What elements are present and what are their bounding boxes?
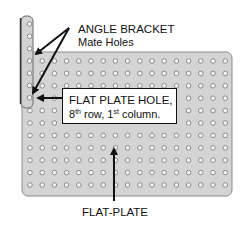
hole (211, 183, 216, 188)
hole (52, 158, 57, 163)
hole (28, 108, 33, 113)
callout-line-1: FLAT PLATE HOLE, (69, 94, 173, 106)
hole (52, 146, 57, 151)
hole (162, 133, 167, 138)
hole (174, 146, 179, 151)
hole (125, 170, 130, 175)
column-text: column. (119, 108, 161, 120)
hole (101, 71, 106, 76)
hole (174, 59, 179, 64)
hole (150, 133, 155, 138)
hole (174, 158, 179, 163)
hole (138, 158, 143, 163)
hole (174, 170, 179, 175)
hole (89, 170, 94, 175)
hole (40, 108, 45, 113)
hole (40, 59, 45, 64)
hole (223, 59, 228, 64)
hole (211, 133, 216, 138)
hole (199, 121, 204, 126)
hole (138, 133, 143, 138)
callout-line-2: 8th row, 1st column. (69, 108, 160, 120)
hole (52, 121, 57, 126)
hole (186, 170, 191, 175)
hole (186, 158, 191, 163)
hole (199, 59, 204, 64)
hole (125, 183, 130, 188)
hole (150, 183, 155, 188)
hole (186, 96, 191, 101)
hole (211, 108, 216, 113)
hole (101, 133, 106, 138)
hole (186, 146, 191, 151)
hole (223, 71, 228, 76)
hole (89, 71, 94, 76)
hole (150, 170, 155, 175)
hole (64, 71, 69, 76)
hole (113, 133, 118, 138)
hole (40, 84, 45, 89)
hole (138, 71, 143, 76)
hole (40, 146, 45, 151)
hole (211, 170, 216, 175)
hole (89, 133, 94, 138)
hole (150, 146, 155, 151)
hole (27, 59, 32, 64)
hole (101, 146, 106, 151)
hole (199, 108, 204, 113)
hole (223, 183, 228, 188)
hole (28, 158, 33, 163)
hole (199, 71, 204, 76)
mate-holes-label: Mate Holes (78, 36, 134, 48)
hole (211, 121, 216, 126)
hole (199, 84, 204, 89)
hole (27, 34, 32, 39)
hole (199, 158, 204, 163)
hole (113, 59, 118, 64)
hole (101, 59, 106, 64)
hole (89, 158, 94, 163)
hole (211, 59, 216, 64)
hole (211, 84, 216, 89)
hole (52, 84, 57, 89)
hole (186, 121, 191, 126)
hole (52, 133, 57, 138)
row-text: row, 1 (81, 108, 113, 120)
hole (28, 170, 33, 175)
hole (27, 83, 32, 88)
hole (174, 71, 179, 76)
hole (150, 59, 155, 64)
hole (150, 71, 155, 76)
hole (150, 158, 155, 163)
hole (77, 183, 82, 188)
hole (223, 170, 228, 175)
hole (101, 170, 106, 175)
hole (138, 170, 143, 175)
hole (223, 96, 228, 101)
hole (77, 146, 82, 151)
hole (223, 146, 228, 151)
hole (64, 133, 69, 138)
angle-bracket-label: ANGLE BRACKET (78, 23, 175, 35)
hole (186, 71, 191, 76)
hole (64, 158, 69, 163)
hole (40, 158, 45, 163)
hole (64, 146, 69, 151)
hole (211, 146, 216, 151)
hole (162, 170, 167, 175)
hole (27, 46, 32, 51)
hole (223, 133, 228, 138)
hole (125, 146, 130, 151)
hole (125, 158, 130, 163)
hole (186, 108, 191, 113)
hole (186, 133, 191, 138)
hole (101, 183, 106, 188)
hole (199, 146, 204, 151)
hole (174, 183, 179, 188)
hole (28, 133, 33, 138)
flat-plate-label: FLAT-PLATE (82, 206, 148, 218)
hole (211, 71, 216, 76)
hole (40, 133, 45, 138)
hole (64, 183, 69, 188)
flat-plate (22, 52, 232, 196)
